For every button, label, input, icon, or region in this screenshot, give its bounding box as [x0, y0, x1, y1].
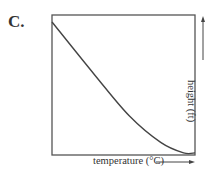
line-chart — [0, 0, 217, 178]
x-axis-label: temperature (°C) — [93, 155, 164, 166]
x-arrowhead-icon — [189, 160, 195, 164]
y-axis-label: height (ft) — [186, 80, 197, 122]
plot-frame — [52, 15, 195, 155]
y-arrowhead-icon — [201, 16, 205, 22]
data-curve — [52, 22, 195, 154]
